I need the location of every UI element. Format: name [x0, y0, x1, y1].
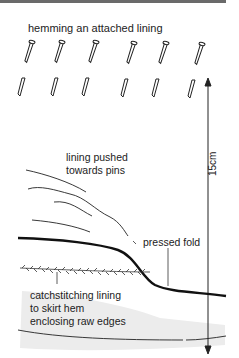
pins-top-row [25, 40, 206, 65]
label-line: enclosing raw edges [30, 315, 126, 328]
label-line: to skirt hem [30, 302, 126, 315]
label-line: lining pushed [66, 151, 128, 164]
catchstitch-line [20, 265, 150, 275]
pins-bottom-row [18, 78, 195, 98]
label-line: catchstitching lining [30, 289, 126, 302]
dimension-label: 15cm [207, 152, 218, 176]
label-pressed-fold: pressed fold [143, 236, 200, 249]
label-catchstitching: catchstitching lining to skirt hem enclo… [30, 289, 126, 328]
label-line: towards pins [66, 164, 128, 177]
diagram-title: hemming an attached lining [28, 22, 163, 35]
dimension-arrow [205, 78, 211, 354]
lining-lines [26, 170, 128, 236]
label-lining-pushed: lining pushed towards pins [66, 151, 128, 177]
